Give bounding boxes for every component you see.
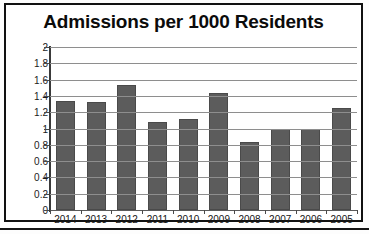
x-axis-label-2013: 2013 [81,214,112,225]
bottom-rule-divider [0,228,369,230]
gridline-0.8 [50,145,357,146]
bar-2005[interactable] [332,108,351,210]
x-axis-tick-mark [50,210,51,214]
bar-2012[interactable] [117,85,136,211]
x-axis-label-2014: 2014 [50,214,81,225]
x-axis-label-2011: 2011 [142,214,173,225]
bar-2007[interactable] [271,129,290,210]
y-axis-label-1.6: 1.6 [14,74,48,85]
y-axis-label-0: 0 [14,205,48,216]
x-axis-tick-mark [111,210,112,214]
gridline-0.6 [50,161,357,162]
chart-title: Admissions per 1000 Residents [6,11,361,33]
bar-2008[interactable] [240,142,259,210]
gridline-2 [50,47,357,48]
y-axis-label-1.4: 1.4 [14,90,48,101]
x-axis-tick-mark [357,210,358,214]
gridline-0.4 [50,177,357,178]
chart-frame: Admissions per 1000 Residents 21.81.61.4… [4,3,363,222]
x-axis-label-2007: 2007 [265,214,296,225]
gridline-1.2 [50,112,357,113]
y-axis-label-0.8: 0.8 [14,139,48,150]
gridline-0.2 [50,194,357,195]
x-axis-tick-mark [204,210,205,214]
bar-2006[interactable] [301,129,320,211]
x-axis-label-2009: 2009 [204,214,235,225]
x-axis-tick-mark [265,210,266,214]
y-axis-label-1.8: 1.8 [14,58,48,69]
x-axis-label-2005: 2005 [326,214,357,225]
x-axis-label-2008: 2008 [234,214,265,225]
x-axis-tick-mark [81,210,82,214]
bar-2011[interactable] [148,122,167,210]
bar-2010[interactable] [179,119,198,210]
x-axis-label-2006: 2006 [296,214,327,225]
y-axis-tick-labels: 21.81.61.41.210.80.60.40.20 [6,5,48,234]
x-axis-tick-mark [142,210,143,214]
x-axis-label-2010: 2010 [173,214,204,225]
x-axis-tick-mark [173,210,174,214]
x-axis-label-2012: 2012 [111,214,142,225]
y-axis-label-1.2: 1.2 [14,107,48,118]
y-axis-label-2: 2 [14,42,48,53]
y-axis-label-0.2: 0.2 [14,188,48,199]
gridline-1.6 [50,80,357,81]
y-axis-label-0.4: 0.4 [14,172,48,183]
chart-screenshot: Admissions per 1000 Residents 21.81.61.4… [0,0,369,234]
bar-2009[interactable] [209,93,228,210]
plot-area [50,47,357,210]
y-axis-label-0.6: 0.6 [14,156,48,167]
gridline-1.4 [50,96,357,97]
gridline-1.8 [50,63,357,64]
x-axis-tick-mark [234,210,235,214]
gridline-1 [50,129,357,130]
x-axis-tick-mark [296,210,297,214]
y-axis-label-1: 1 [14,123,48,134]
x-axis-tick-mark [326,210,327,214]
